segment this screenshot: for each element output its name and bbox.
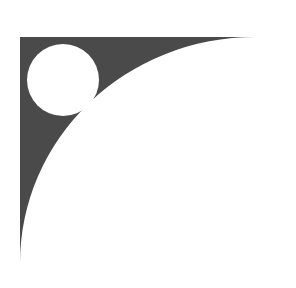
circular-cutout (27, 44, 99, 116)
corner-shape-figure (0, 0, 296, 288)
